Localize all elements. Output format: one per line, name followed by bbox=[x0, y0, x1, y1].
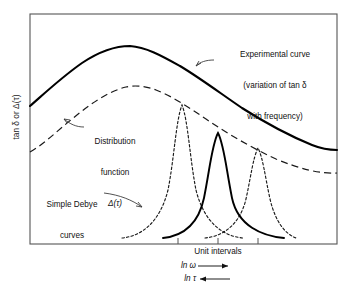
figure-container: tan δ or Δ(τ) Experimental curve (variat… bbox=[0, 0, 345, 293]
annotation-experimental-curve: Experimental curve (variation of tan δ w… bbox=[216, 30, 334, 142]
x-axis-unit-intervals-caption: Unit intervals bbox=[170, 247, 266, 257]
distribution-leader-line bbox=[64, 119, 84, 127]
annotation-experimental-line-2: (variation of tan δ bbox=[216, 81, 334, 91]
ln-omega-arrow-icon bbox=[198, 263, 228, 268]
x-axis-ln-tau-label: ln τ bbox=[150, 274, 196, 284]
annotation-distribution-line-2: function bbox=[84, 168, 146, 178]
annotation-experimental-line-1: Experimental curve bbox=[216, 50, 334, 60]
annotation-experimental-line-3: with frequency) bbox=[216, 112, 334, 122]
annotation-debye-line-2: curves bbox=[34, 231, 110, 241]
y-axis-label: tan δ or Δ(τ) bbox=[11, 65, 21, 169]
annotation-simple-debye-curves: Simple Debye curves bbox=[34, 180, 110, 262]
annotation-distribution-line-1: Distribution bbox=[84, 137, 146, 147]
annotation-debye-line-1: Simple Debye bbox=[34, 200, 110, 210]
x-axis-ln-omega-label: ln ω bbox=[150, 261, 196, 271]
x-axis-ticks bbox=[178, 238, 258, 244]
ln-tau-arrow-icon bbox=[200, 276, 230, 281]
experimental-leader-line bbox=[196, 60, 214, 66]
debye-curve-center bbox=[163, 133, 284, 238]
